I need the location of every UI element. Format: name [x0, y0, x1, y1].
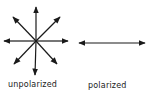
arrow-down-right: [36, 41, 57, 64]
polarized-label: polarized: [88, 81, 127, 90]
unpolarized-label: unpolarized: [8, 80, 57, 89]
arrow-down: [35, 41, 36, 75]
arrow-down-left: [14, 41, 36, 64]
arrow-up-left: [13, 17, 36, 41]
arrow-up-right: [36, 17, 60, 41]
unpolarized-star-arrows: [4, 7, 68, 75]
